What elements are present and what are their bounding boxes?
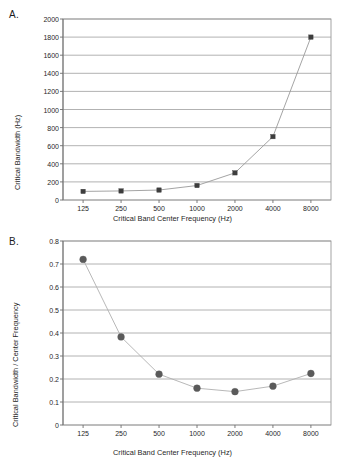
y-tick-label: 0.3 [33, 353, 59, 360]
x-tick-label: 4000 [265, 430, 281, 437]
y-tick-label: 0.8 [33, 238, 59, 245]
x-tick-label: 125 [77, 205, 89, 212]
y-tick-label: 1400 [33, 70, 59, 77]
y-tick-label: 0.2 [33, 376, 59, 383]
x-tick-label: 2000 [227, 430, 243, 437]
y-tick-label: 0.4 [33, 330, 59, 337]
y-tick-label: 200 [33, 178, 59, 185]
x-tick-label: 1000 [189, 430, 205, 437]
x-tick-label: 8000 [303, 205, 319, 212]
x-tick-label: 1000 [189, 205, 205, 212]
y-tick-label: 0.7 [33, 261, 59, 268]
x-tick-label: 250 [115, 205, 127, 212]
y-tick-label: 2000 [33, 16, 59, 23]
x-tick-label: 2000 [227, 205, 243, 212]
y-tick-label: 600 [33, 142, 59, 149]
y-tick-label: 0.5 [33, 307, 59, 314]
x-tick-label: 8000 [303, 430, 319, 437]
x-tick-label: 500 [153, 205, 165, 212]
y-tick-label: 1000 [33, 106, 59, 113]
chart-panel-a: A. Critical Band Center Frequency (Hz) C… [0, 0, 345, 232]
y-tick-label: 0.6 [33, 284, 59, 291]
y-tick-label: 800 [33, 124, 59, 131]
x-tick-label: 500 [153, 430, 165, 437]
y-tick-label: 400 [33, 160, 59, 167]
y-tick-label: 1200 [33, 88, 59, 95]
y-tick-label: 0 [33, 197, 59, 204]
figure-root: A. Critical Band Center Frequency (Hz) C… [0, 0, 345, 464]
x-tick-label: 250 [115, 430, 127, 437]
x-tick-label: 4000 [265, 205, 281, 212]
chart-panel-b: B. Critical Band Center Frequency (Hz) C… [0, 232, 345, 464]
y-tick-label: 0.1 [33, 399, 59, 406]
x-tick-label: 125 [77, 430, 89, 437]
y-tick-label: 1600 [33, 52, 59, 59]
y-tick-label: 0 [33, 422, 59, 429]
y-tick-label: 1800 [33, 34, 59, 41]
